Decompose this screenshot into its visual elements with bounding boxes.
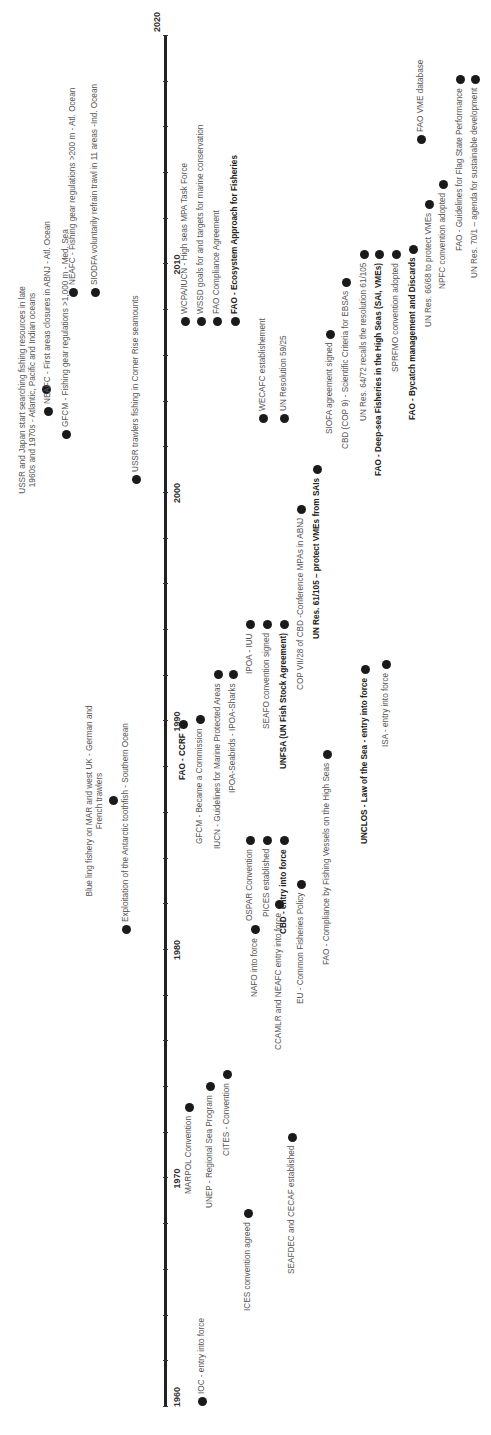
event-marker: [198, 1397, 207, 1406]
event-label-fao-bycatch: FAO - Bycatch management and Discards: [408, 258, 418, 420]
event-marker: [69, 288, 78, 297]
axis-tick: [163, 126, 168, 127]
event-marker: [439, 180, 448, 189]
axis-tick: [163, 218, 168, 219]
event-marker: [360, 250, 369, 259]
event-label-unres-64: UN Res. 64/72 recalls the resolution 61/…: [359, 263, 369, 421]
event-marker: [251, 925, 260, 934]
event-marker: [280, 414, 289, 423]
event-label-nafo: NAFO into force: [250, 938, 260, 997]
event-marker: [297, 505, 306, 514]
event-label-fao-eaf: FAO - Ecosystem Approach for Fisheries: [230, 155, 240, 314]
axis-tick: [163, 903, 168, 904]
axis-tick: [163, 1040, 168, 1041]
axis-tick: [163, 446, 168, 447]
event-label-blue-ling: Blue ling fishery on MAR and west UK - G…: [85, 701, 105, 901]
axis-tick: [163, 1223, 168, 1224]
event-label-ipoa-seabirds: IPOA-Seabirds - IPOA-Sharks: [228, 683, 238, 793]
event-marker: [361, 665, 370, 674]
event-marker: [206, 1082, 215, 1091]
axis-tick: [163, 858, 168, 859]
event-marker: [62, 430, 71, 439]
axis-tick: [163, 1360, 168, 1361]
event-marker: [342, 278, 351, 287]
axis-tick: [163, 1178, 168, 1179]
event-marker: [213, 317, 222, 326]
event-label-cop7: COP VII/28 of CBD -Conference MPAs in AB…: [296, 518, 306, 690]
axis-tick: [163, 492, 168, 493]
axis-tick: [163, 812, 168, 813]
event-marker: [179, 720, 188, 729]
event-marker: [288, 1133, 297, 1142]
event-marker: [323, 750, 332, 759]
axis-tick: [163, 1132, 168, 1133]
axis-tick: [163, 629, 168, 630]
event-label-siodfa: SIODFA voluntarily refrain trawl in 11 a…: [90, 84, 100, 285]
event-label-unres-61: UN Res. 61/105 – protect VMEs from SAIs: [312, 478, 322, 639]
event-label-isa: ISA - entry into force: [381, 673, 391, 747]
event-marker: [392, 250, 401, 259]
year-label: 1960: [172, 1387, 182, 1407]
event-marker: [246, 620, 255, 629]
event-marker: [417, 135, 426, 144]
axis-tick: [163, 35, 168, 36]
event-marker: [297, 880, 306, 889]
event-label-wssd: WSSD goals for and targets for marine co…: [196, 125, 206, 314]
event-label-cbd-cop9: CBD (COP 9) - Scientific Criteria for EB…: [341, 291, 351, 449]
event-label-npfc: NPFC convention adopted: [438, 193, 448, 289]
event-marker: [181, 317, 190, 326]
event-marker: [109, 796, 118, 805]
event-label-un-res-59: UN Resolution 59/25: [279, 335, 289, 411]
event-marker: [326, 330, 335, 339]
event-label-unres-66: UN Res. 66/68 to protect VMEs: [424, 213, 434, 327]
event-marker: [196, 715, 205, 724]
event-label-fao-compliance: FAO Compliance Agreement: [212, 210, 222, 314]
event-label-wecafc: WECAFC establishement: [258, 318, 268, 411]
event-marker: [223, 1070, 232, 1079]
event-marker: [280, 836, 289, 845]
event-label-fao-vme-db: FAO VME database: [416, 60, 426, 132]
axis-tick: [163, 538, 168, 539]
event-label-fao-deepsea: FAO - Deep-sea Fisheries in the High Sea…: [374, 263, 384, 476]
year-label: 2000: [172, 483, 182, 503]
event-label-ussr-corner: USSR trawlers fishing in Corner Rise sea…: [131, 295, 141, 472]
event-label-iucn: IUCN - Guidelines for Marine Protected A…: [213, 683, 223, 849]
event-label-neafc-gear: NEAFC - Fishing gear regulations >200 m …: [68, 88, 78, 285]
event-label-neafc-closures: NEAFC - First areas closures in ABNJ - A…: [43, 221, 53, 404]
event-marker: [231, 317, 240, 326]
axis-tick: [163, 583, 168, 584]
event-label-fao-flag: FAO - Guidelines for Flag State Performa…: [455, 88, 465, 251]
event-marker: [244, 1209, 253, 1218]
axis-tick: [163, 81, 168, 82]
year-label: 1970: [172, 1168, 182, 1188]
event-label-unres-70: UN Res. 70/1 – agenda for sustainable de…: [470, 88, 480, 278]
axis-tick: [163, 995, 168, 996]
event-marker: [259, 414, 268, 423]
event-marker: [382, 660, 391, 669]
event-label-ospar: OSPAR Convention: [245, 849, 255, 921]
axis-tick: [163, 675, 168, 676]
event-marker: [313, 465, 322, 474]
event-marker: [425, 200, 434, 209]
timeline-canvas: 1960197019801990200020102020 USSR and Ja…: [0, 0, 491, 1435]
year-label: 2020: [152, 12, 162, 32]
axis-tick: [163, 355, 168, 356]
event-label-unfsa: UNFSA (UN Fish Stock Agreement): [279, 633, 289, 769]
event-label-gfcm-comm: GFCM - Became a Commission: [195, 728, 205, 844]
axis-tick: [163, 264, 168, 265]
event-marker: [91, 288, 100, 297]
event-marker: [132, 475, 141, 484]
event-marker: [471, 75, 480, 84]
event-marker: [375, 250, 384, 259]
event-label-fao-compliance-hs: FAO - Compliance by Fishing Vessels on t…: [322, 763, 332, 965]
event-marker: [122, 925, 131, 934]
event-label-seafdec: SEAFDEC and CECAF established: [287, 1146, 297, 1274]
event-label-unclos: UNCLOS - Law of the Sea - entry into for…: [360, 678, 370, 844]
event-label-marpol: MARPOL Convention: [184, 1116, 194, 1194]
event-marker: [280, 620, 289, 629]
axis-tick: [163, 309, 168, 310]
axis-tick: [163, 949, 168, 950]
event-marker: [409, 245, 418, 254]
event-label-seafo: SEAFO convention signed: [262, 633, 272, 729]
event-label-wcpa: WCPA/IUCN - High seas MPA Task Force: [180, 163, 190, 314]
